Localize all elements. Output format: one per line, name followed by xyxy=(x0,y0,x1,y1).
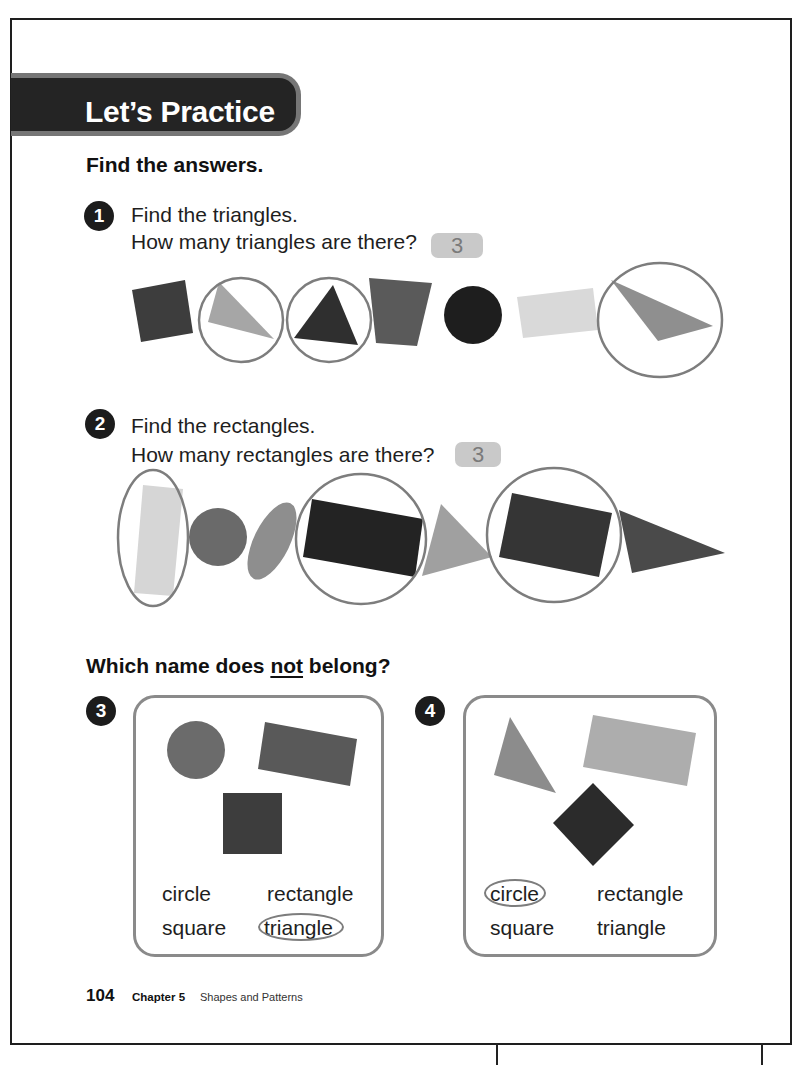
rectangle-shape xyxy=(583,715,696,786)
footer-chapter: Chapter 5 xyxy=(132,991,185,1004)
triangle-shape xyxy=(619,510,725,573)
problem-3-shapes xyxy=(167,721,357,854)
rectangle-shape xyxy=(134,485,183,596)
page-number: 104 xyxy=(86,987,114,1005)
circle-shape xyxy=(167,721,225,779)
square-shape xyxy=(553,783,634,866)
shapes-layer xyxy=(0,0,803,1065)
circle-shape xyxy=(189,508,247,566)
triangle-shape xyxy=(611,280,713,341)
footer-chapter-title: Shapes and Patterns xyxy=(200,991,303,1004)
problem-2-shapes xyxy=(118,468,725,606)
rectangle-shape xyxy=(303,499,423,577)
triangle-shape xyxy=(294,285,358,345)
trapezoid-shape xyxy=(369,278,432,346)
rectangle-shape xyxy=(517,288,598,338)
square-shape xyxy=(132,280,193,342)
rectangle-shape xyxy=(499,493,612,577)
textbook-page: Let’s Practice Find the answers. 1 Find … xyxy=(0,0,803,1065)
square-shape xyxy=(223,793,282,854)
circle-shape xyxy=(444,286,502,344)
triangle-shape xyxy=(422,504,492,576)
rectangle-shape xyxy=(258,722,357,786)
problem-1-shapes xyxy=(132,263,722,377)
triangle-shape xyxy=(208,282,274,339)
triangle-shape xyxy=(494,717,556,793)
problem-4-shapes xyxy=(494,715,696,866)
